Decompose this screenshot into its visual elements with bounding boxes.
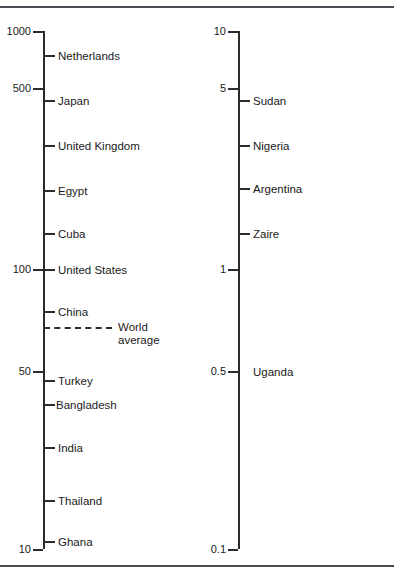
left-point-tick-egypt <box>45 190 55 192</box>
right-point-label-uganda: Uganda <box>253 366 293 378</box>
bottom-rule <box>0 565 394 567</box>
right-point-tick-nigeria <box>240 145 250 147</box>
right-axis-line <box>238 31 240 549</box>
left-point-label-india: India <box>58 442 83 454</box>
right-point-label-zaire: Zaire <box>253 228 279 240</box>
right-axis-label-0.1: 0.1 <box>188 544 226 555</box>
right-axis-label-0.5: 0.5 <box>188 366 226 377</box>
right-point-tick-sudan <box>240 100 250 102</box>
right-axis-tick-1 <box>228 269 238 271</box>
left-point-label-thailand: Thailand <box>58 495 102 507</box>
left-axis-label-500: 500 <box>0 83 31 94</box>
right-point-label-nigeria: Nigeria <box>253 140 289 152</box>
left-point-tick-japan <box>45 100 55 102</box>
left-point-tick-india <box>45 447 55 449</box>
left-axis-label-100: 100 <box>0 264 31 275</box>
left-axis-tick-50 <box>33 371 43 373</box>
right-axis-tick-0.5 <box>228 371 238 373</box>
left-point-label-bangladesh: Bangladesh <box>56 399 117 411</box>
top-rule <box>0 6 394 8</box>
left-point-tick-netherlands <box>45 55 55 57</box>
left-point-tick-united-kingdom <box>45 145 55 147</box>
world-average-label: World average <box>118 321 188 347</box>
left-point-label-united-kingdom: United Kingdom <box>58 140 140 152</box>
right-point-label-sudan: Sudan <box>253 95 286 107</box>
left-axis-label-50: 50 <box>0 366 31 377</box>
left-point-tick-thailand <box>45 500 55 502</box>
left-point-label-cuba: Cuba <box>58 228 86 240</box>
chart-figure: 1000 500 100 50 10 Netherlands Japan Uni… <box>0 0 394 578</box>
left-point-label-china: China <box>58 306 88 318</box>
right-axis-label-5: 5 <box>188 83 226 94</box>
right-axis-label-1: 1 <box>188 264 226 275</box>
right-point-label-argentina: Argentina <box>253 183 302 195</box>
left-axis-tick-500 <box>33 88 43 90</box>
left-axis-label-10: 10 <box>0 544 31 555</box>
left-point-tick-ghana <box>45 541 55 543</box>
world-average-line <box>44 327 112 329</box>
left-point-tick-cuba <box>45 233 55 235</box>
left-axis-tick-1000 <box>33 31 43 33</box>
right-axis-tick-5 <box>228 88 238 90</box>
left-point-label-united-states: United States <box>58 264 127 276</box>
right-point-tick-argentina <box>240 188 250 190</box>
left-axis-tick-100 <box>33 269 43 271</box>
left-point-tick-united-states <box>45 269 55 271</box>
left-axis-tick-10 <box>33 549 43 551</box>
left-axis-label-1000: 1000 <box>0 26 31 37</box>
right-axis-label-10: 10 <box>188 26 226 37</box>
left-point-tick-turkey <box>45 380 55 382</box>
left-point-label-japan: Japan <box>58 95 89 107</box>
left-point-tick-china <box>45 311 55 313</box>
left-point-label-turkey: Turkey <box>58 375 93 387</box>
left-axis-line <box>43 31 45 549</box>
right-point-tick-zaire <box>240 233 250 235</box>
left-point-label-ghana: Ghana <box>58 536 93 548</box>
right-axis-tick-0.1 <box>228 549 238 551</box>
left-point-tick-bangladesh <box>45 404 55 406</box>
left-point-label-netherlands: Netherlands <box>58 50 120 62</box>
right-axis-tick-10 <box>228 31 238 33</box>
left-point-label-egypt: Egypt <box>58 185 87 197</box>
